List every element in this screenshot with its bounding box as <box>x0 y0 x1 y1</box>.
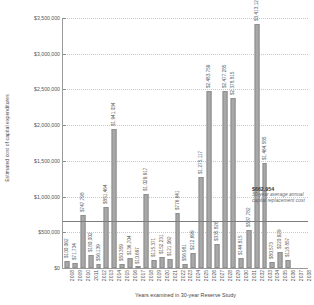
bar-value-label: $10,697 <box>135 247 140 264</box>
bar-slot <box>300 18 308 268</box>
y-axis-title: Estimated cost of capital expenditures <box>0 0 14 275</box>
bar-slot: $100,062 <box>63 18 71 268</box>
x-axis-tick-labels: 2008200920102011201220132014201520162017… <box>63 269 308 291</box>
x-tick-slot: 2009 <box>71 269 79 291</box>
bar[interactable] <box>159 257 164 268</box>
bar[interactable] <box>96 264 101 268</box>
bar-slot: $1,029,917 <box>142 18 150 268</box>
y-axis-tick-label: $3,500,000 <box>34 15 60 21</box>
x-tick-slot: 2030 <box>237 269 245 291</box>
bar-value-label: $71,734 <box>72 243 77 260</box>
bar[interactable] <box>286 260 291 268</box>
x-tick-slot: 2012 <box>95 269 103 291</box>
bar-slot: $220,929 <box>276 18 284 268</box>
bar[interactable] <box>64 261 69 268</box>
x-tick-slot: 2037 <box>292 269 300 291</box>
bar-slot: $180,002 <box>87 18 95 268</box>
bar[interactable] <box>223 91 228 268</box>
bar-value-label: $80,573 <box>270 242 275 259</box>
x-tick-slot: 2026 <box>205 269 213 291</box>
bar[interactable] <box>246 230 251 268</box>
x-tick-slot: 2035 <box>276 269 284 291</box>
bar-value-label: $212,699 <box>191 230 196 250</box>
bar-value-label: $776,641 <box>175 190 180 210</box>
y-axis-tick-label: $3,000,000 <box>34 51 60 57</box>
x-tick-slot: 2028 <box>221 269 229 291</box>
y-axis-tick-label: $2,000,000 <box>34 122 60 128</box>
bar[interactable] <box>183 264 188 268</box>
x-axis-tick-label: 2038 <box>306 270 312 281</box>
bar-value-label: $2,378,815 <box>230 72 235 95</box>
bar-value-label: $50,359 <box>120 244 125 261</box>
bar-slot: $2,378,815 <box>229 18 237 268</box>
bar-slot: $118,857 <box>284 18 292 268</box>
bar-value-label: $1,941,034 <box>112 103 117 126</box>
bar[interactable] <box>270 262 275 268</box>
bar[interactable] <box>238 258 243 268</box>
bar-slot <box>292 18 300 268</box>
bar[interactable] <box>151 260 156 268</box>
bar[interactable] <box>215 244 220 268</box>
x-tick-slot: 2017 <box>134 269 142 291</box>
bar-value-label: $2,483,759 <box>207 64 212 87</box>
x-tick-slot: 2033 <box>261 269 269 291</box>
bar-value-label: $1,029,917 <box>143 168 148 191</box>
bar-slot: $1,275,117 <box>197 18 205 268</box>
bar[interactable] <box>199 177 204 268</box>
bar[interactable] <box>80 215 85 268</box>
x-tick-slot: 2034 <box>268 269 276 291</box>
annotation-description: 30-year average annual capital replaceme… <box>252 192 312 203</box>
bar[interactable] <box>254 24 259 268</box>
x-tick-slot: 2022 <box>174 269 182 291</box>
bar[interactable] <box>167 259 172 268</box>
x-tick-slot: 2020 <box>158 269 166 291</box>
bar[interactable] <box>278 252 283 268</box>
bars-layer: $100,062$71,734$747,798$180,002$56,139$8… <box>63 18 308 268</box>
bar-slot: $136,704 <box>126 18 134 268</box>
y-axis-tick-label: $1,500,000 <box>34 158 60 164</box>
bar-value-label: $3,413,123 <box>254 0 259 21</box>
bar-slot: $50,359 <box>118 18 126 268</box>
x-tick-slot: 2019 <box>150 269 158 291</box>
x-tick-slot: 2027 <box>213 269 221 291</box>
bar[interactable] <box>104 207 109 268</box>
y-axis-tick-label: $2,500,000 <box>34 86 60 92</box>
bar-slot: $2,477,285 <box>221 18 229 268</box>
x-tick-slot: 2036 <box>284 269 292 291</box>
bar-value-label: $100,062 <box>64 238 69 258</box>
bar[interactable] <box>128 258 133 268</box>
bar[interactable] <box>72 263 77 268</box>
bar-value-label: $220,929 <box>278 230 283 250</box>
bar-slot: $3,413,123 <box>253 18 261 268</box>
x-tick-slot: 2032 <box>253 269 261 291</box>
x-tick-slot: 2029 <box>229 269 237 291</box>
bar[interactable] <box>144 194 149 268</box>
bar[interactable] <box>88 255 93 268</box>
x-tick-slot: 2038 <box>300 269 308 291</box>
bar-slot: $56,139 <box>95 18 103 268</box>
bar[interactable] <box>120 264 125 268</box>
bar[interactable] <box>112 129 117 268</box>
x-tick-slot: 2024 <box>189 269 197 291</box>
y-axis-tick-labels: $3,500,000$3,000,000$2,500,000$2,000,000… <box>14 18 60 268</box>
bar[interactable] <box>262 163 267 268</box>
bar-slot: $152,231 <box>158 18 166 268</box>
average-line <box>63 221 308 222</box>
bar-value-label: $56,139 <box>96 244 101 261</box>
x-tick-slot: 2031 <box>245 269 253 291</box>
x-axis-title: Years examined in 30-year Reserve Study <box>63 292 308 298</box>
x-tick-slot: 2018 <box>142 269 150 291</box>
bar[interactable] <box>136 266 141 268</box>
bar-value-label: $747,798 <box>80 192 85 212</box>
bar[interactable] <box>207 91 212 268</box>
bar-value-label: $851,464 <box>104 185 109 205</box>
bar-slot: $335,826 <box>213 18 221 268</box>
bar-slot: $747,798 <box>79 18 87 268</box>
bar-value-label: $1,275,117 <box>199 151 204 174</box>
y-axis-tick-label: $500,000 <box>38 229 60 235</box>
x-tick-slot: 2008 <box>63 269 71 291</box>
x-tick-slot: 2015 <box>118 269 126 291</box>
bar[interactable] <box>191 253 196 268</box>
bar-value-label: $537,782 <box>246 207 251 227</box>
bar[interactable] <box>230 98 235 268</box>
